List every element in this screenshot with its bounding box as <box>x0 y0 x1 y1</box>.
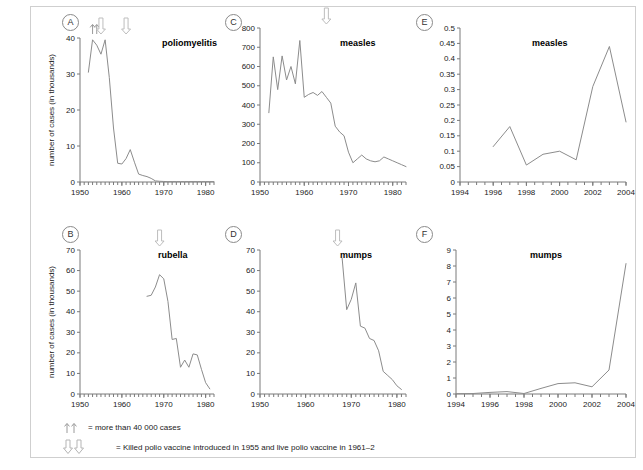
svg-text:2004: 2004 <box>617 188 635 197</box>
svg-text:100: 100 <box>242 158 256 167</box>
svg-text:10: 10 <box>66 369 75 378</box>
svg-text:0: 0 <box>251 178 256 187</box>
svg-text:1950: 1950 <box>251 188 269 197</box>
svg-text:1960: 1960 <box>113 188 131 197</box>
svg-text:20: 20 <box>66 106 75 115</box>
svg-text:1980: 1980 <box>384 188 402 197</box>
svg-text:0.2: 0.2 <box>444 116 456 125</box>
svg-text:0.35: 0.35 <box>439 70 455 79</box>
svg-text:0: 0 <box>251 390 256 399</box>
panel-e-plot: 00.050.10.150.20.250.30.350.40.450.51994… <box>412 10 632 210</box>
svg-text:1970: 1970 <box>340 188 358 197</box>
figure-root: A poliomyelitis 010203040195019601970198… <box>0 0 643 470</box>
svg-text:0.15: 0.15 <box>439 131 455 140</box>
svg-text:1950: 1950 <box>71 400 89 409</box>
svg-text:50: 50 <box>66 287 75 296</box>
svg-text:0.5: 0.5 <box>444 24 456 33</box>
svg-text:400: 400 <box>242 101 256 110</box>
svg-text:2000: 2000 <box>549 400 567 409</box>
svg-text:0.4: 0.4 <box>444 54 456 63</box>
svg-text:40: 40 <box>66 34 75 43</box>
svg-text:2002: 2002 <box>583 400 601 409</box>
svg-text:1994: 1994 <box>451 188 469 197</box>
panel-a: A poliomyelitis 010203040195019601970198… <box>38 10 218 210</box>
svg-text:1996: 1996 <box>484 188 502 197</box>
legend-text-up-arrows: = more than 40 000 cases <box>88 423 181 432</box>
panel-b-plot: 0102030405060701950196019701980number of… <box>38 222 218 422</box>
svg-text:0: 0 <box>71 178 76 187</box>
svg-text:9: 9 <box>447 246 452 255</box>
svg-text:20: 20 <box>246 348 255 357</box>
panel-c-plot: 0100200300400500600700800195019601970198… <box>220 10 410 210</box>
svg-text:3: 3 <box>447 342 452 351</box>
svg-text:1960: 1960 <box>297 400 315 409</box>
svg-text:0.45: 0.45 <box>439 39 455 48</box>
svg-text:200: 200 <box>242 139 256 148</box>
svg-text:0.3: 0.3 <box>444 85 456 94</box>
svg-text:6: 6 <box>447 294 452 303</box>
svg-text:1998: 1998 <box>515 400 533 409</box>
svg-text:0.05: 0.05 <box>439 162 455 171</box>
svg-text:70: 70 <box>246 246 255 255</box>
svg-text:1950: 1950 <box>251 400 269 409</box>
svg-text:60: 60 <box>66 266 75 275</box>
svg-text:1980: 1980 <box>388 400 406 409</box>
svg-text:2002: 2002 <box>584 188 602 197</box>
svg-text:1994: 1994 <box>447 400 465 409</box>
panel-e: E measles 00.050.10.150.20.250.30.350.40… <box>412 10 632 210</box>
svg-text:1970: 1970 <box>155 188 173 197</box>
svg-text:number of cases (in thousands): number of cases (in thousands) <box>47 266 56 378</box>
svg-text:number of cases (in thousands): number of cases (in thousands) <box>47 54 56 166</box>
panel-d: D mumps 0102030405060701950196019701980 <box>220 222 410 422</box>
legend-row-down-arrows: = Killed polio vaccine introduced in 195… <box>62 439 375 455</box>
panel-a-plot: 0102030401950196019701980number of cases… <box>38 10 218 210</box>
svg-text:10: 10 <box>246 369 255 378</box>
svg-text:0.1: 0.1 <box>444 147 456 156</box>
svg-text:5: 5 <box>447 310 452 319</box>
legend-text-down-arrows: = Killed polio vaccine introduced in 195… <box>116 443 375 452</box>
svg-text:30: 30 <box>66 328 75 337</box>
legend-row-up-arrows: = more than 40 000 cases <box>62 421 375 434</box>
svg-text:300: 300 <box>242 120 256 129</box>
svg-text:1970: 1970 <box>155 400 173 409</box>
panel-f: F mumps 01234567891994199619982000200220… <box>412 222 632 422</box>
svg-text:1960: 1960 <box>295 188 313 197</box>
svg-text:800: 800 <box>242 24 256 33</box>
svg-text:1950: 1950 <box>71 188 89 197</box>
svg-text:1960: 1960 <box>113 400 131 409</box>
svg-text:600: 600 <box>242 62 256 71</box>
figure-legend: = more than 40 000 cases = Killed polio … <box>62 421 375 460</box>
down-down-arrows-icon <box>62 439 112 455</box>
svg-text:60: 60 <box>246 266 255 275</box>
svg-text:0: 0 <box>71 390 76 399</box>
svg-text:4: 4 <box>447 326 452 335</box>
svg-text:70: 70 <box>66 246 75 255</box>
svg-text:0: 0 <box>447 390 452 399</box>
svg-text:7: 7 <box>447 278 452 287</box>
svg-text:8: 8 <box>447 262 452 271</box>
svg-text:1: 1 <box>447 374 452 383</box>
svg-text:700: 700 <box>242 43 256 52</box>
svg-text:10: 10 <box>66 142 75 151</box>
up-up-arrows-icon <box>62 421 84 434</box>
svg-text:2000: 2000 <box>551 188 569 197</box>
panel-c: C measles 010020030040050060070080019501… <box>220 10 410 210</box>
svg-text:50: 50 <box>246 287 255 296</box>
svg-text:1970: 1970 <box>342 400 360 409</box>
svg-text:2004: 2004 <box>617 400 635 409</box>
svg-text:40: 40 <box>246 307 255 316</box>
panel-f-plot: 0123456789199419961998200020022004 <box>412 222 632 422</box>
svg-text:20: 20 <box>66 348 75 357</box>
svg-text:0: 0 <box>451 178 456 187</box>
svg-text:1980: 1980 <box>197 400 215 409</box>
svg-text:1980: 1980 <box>197 188 215 197</box>
svg-text:40: 40 <box>66 307 75 316</box>
svg-text:30: 30 <box>246 328 255 337</box>
svg-text:0.25: 0.25 <box>439 101 455 110</box>
panel-b: B rubella 010203040506070195019601970198… <box>38 222 218 422</box>
panel-d-plot: 0102030405060701950196019701980 <box>220 222 410 422</box>
svg-text:500: 500 <box>242 81 256 90</box>
svg-text:30: 30 <box>66 70 75 79</box>
svg-text:2: 2 <box>447 358 452 367</box>
svg-text:1996: 1996 <box>481 400 499 409</box>
